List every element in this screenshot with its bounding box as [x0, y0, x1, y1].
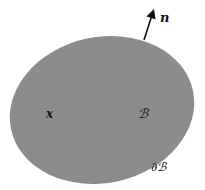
body-label: ℬ	[138, 106, 149, 121]
body-diagram: n x ℬ ∂ℬ	[0, 0, 205, 190]
boundary-label: ∂ℬ	[151, 160, 168, 174]
body-region	[0, 19, 205, 190]
point-label: x	[45, 107, 54, 121]
normal-vector-arrow	[144, 12, 153, 40]
normal-label: n	[160, 10, 169, 25]
